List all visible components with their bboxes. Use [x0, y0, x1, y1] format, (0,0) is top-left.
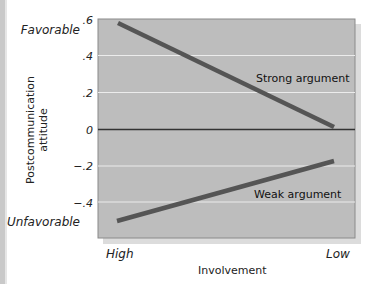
- y-axis-title-line2: attitude: [37, 108, 50, 152]
- ytick-neg-0.2: −.2: [73, 160, 93, 173]
- xtick-low: Low: [326, 247, 350, 261]
- plot-area: [98, 19, 355, 238]
- x-axis-title: Involvement: [198, 264, 267, 277]
- ytick-0.4: .4: [83, 50, 94, 63]
- ytick-0.2: .2: [83, 87, 94, 100]
- unfavorable-label: Unfavorable: [7, 215, 80, 229]
- y-axis-title: Postcommunication attitude: [24, 76, 50, 184]
- weak-argument-label: Weak argument: [254, 188, 342, 201]
- xtick-high: High: [106, 247, 134, 261]
- ytick-neg-0.4: −.4: [73, 197, 93, 210]
- ytick-0: 0: [86, 124, 93, 137]
- y-axis-title-line1: Postcommunication: [24, 76, 37, 184]
- line-chart: Strong argument Weak argument .6 .4 .2 0…: [0, 0, 376, 284]
- y-axis-ticks: .6 .4 .2 0 −.2 −.4: [73, 14, 93, 210]
- strong-argument-label: Strong argument: [256, 72, 350, 85]
- favorable-label: Favorable: [21, 23, 80, 37]
- ytick-0.6: .6: [83, 14, 94, 27]
